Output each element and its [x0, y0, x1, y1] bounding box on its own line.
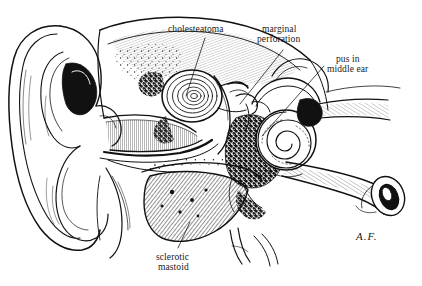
label-marginal-perforation-line2: perforation: [257, 34, 300, 45]
internal-auditory-meatus: [318, 86, 400, 120]
label-sclerotic-mastoid-line1: sclerotic: [156, 252, 189, 263]
label-pus-in-middle-ear-line1: pus in: [336, 54, 360, 65]
artist-signature: A.F.: [356, 230, 378, 242]
ear-cross-section-artwork: [0, 0, 422, 286]
label-pus-in-middle-ear-line2: middle ear: [327, 64, 368, 75]
label-sclerotic-mastoid-line2: mastoid: [158, 262, 189, 273]
label-marginal-perforation-line1: marginal: [262, 24, 296, 35]
label-cholesteatoma: cholesteatoma: [168, 24, 224, 35]
auricle-pinna: [9, 26, 121, 251]
styloid-process: [230, 228, 278, 266]
medical-illustration-figure: cholesteatoma marginal perforation pus i…: [0, 0, 422, 286]
cut-off-caption: [0, 279, 422, 286]
eustachian-tube: [282, 162, 410, 221]
